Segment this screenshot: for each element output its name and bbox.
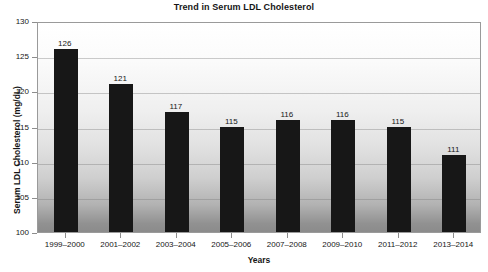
y-tick-mark [32,233,37,234]
bar-value-label: 115 [381,117,415,126]
chart-container: Trend in Serum LDL Cholesterol Serum LDL… [0,0,488,272]
bar-value-label: 117 [159,102,193,111]
bar-value-label: 115 [214,117,248,126]
y-tick-label: 130 [0,18,29,26]
bar-value-label: 116 [270,110,304,119]
plot-area [37,22,481,233]
bar-value-label: 111 [436,145,470,154]
bar-value-label: 126 [48,39,82,48]
bar [165,112,189,232]
x-tick-mark [65,233,66,238]
y-tick-label: 115 [0,124,29,132]
x-tick-mark [453,233,454,238]
chart-title: Trend in Serum LDL Cholesterol [0,2,488,12]
bar [442,155,466,232]
y-tick-label: 110 [0,159,29,167]
bar-value-label: 121 [103,74,137,83]
x-axis-label: Years [37,255,481,265]
x-tick-mark [176,233,177,238]
x-tick-mark [120,233,121,238]
bar [109,84,133,232]
y-tick-label: 120 [0,88,29,96]
x-tick-mark [231,233,232,238]
bar-series [38,23,480,232]
y-tick-label: 105 [0,194,29,202]
y-tick-label: 125 [0,53,29,61]
x-tick-mark [398,233,399,238]
bar [276,120,300,233]
bar-value-label: 116 [325,110,359,119]
y-tick-label: 100 [0,229,29,237]
bar [331,120,355,233]
x-tick-mark [287,233,288,238]
bar [54,49,78,232]
bar [387,127,411,233]
x-tick-label: 2013–2014 [418,240,488,250]
x-tick-mark [342,233,343,238]
y-axis-label: Serum LDL Cholesterol (mg/dL) [12,44,23,256]
bar [220,127,244,233]
